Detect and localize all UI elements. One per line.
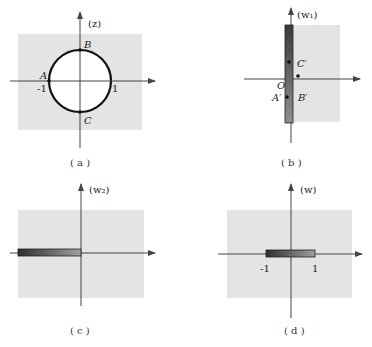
plane-label-w1: (w₁) bbox=[297, 9, 317, 20]
point-c-prime-dot bbox=[287, 60, 291, 64]
tick-one: 1 bbox=[312, 263, 318, 274]
shaded-half-plane bbox=[292, 25, 340, 122]
point-a-dot bbox=[47, 79, 51, 83]
slit-bar bbox=[285, 25, 293, 123]
point-b-label: B bbox=[83, 39, 91, 50]
plane-label-z: (z) bbox=[88, 18, 101, 29]
point-a-prime-dot bbox=[285, 95, 289, 99]
tick-one: 1 bbox=[112, 83, 118, 94]
caption-a: ( a ) bbox=[70, 157, 90, 168]
point-c-label: C bbox=[84, 115, 92, 126]
panel-b: (w₁) C′ O A′ B′ ( b ) bbox=[244, 8, 360, 168]
point-a-label: A bbox=[39, 70, 47, 81]
conformal-mapping-diagram: (z) B A -1 1 C ( a ) (w₁) C′ O A′ B′ ( b… bbox=[0, 0, 372, 347]
plane-label-w2: (w₂) bbox=[89, 184, 109, 195]
origin-label: O bbox=[277, 80, 285, 91]
panel-c: (w₂) ( c ) bbox=[10, 184, 155, 336]
point-a-prime-label: A′ bbox=[271, 92, 282, 103]
caption-c: ( c ) bbox=[70, 325, 90, 336]
slit-bar bbox=[266, 250, 315, 257]
plane-label-w: (w) bbox=[300, 184, 316, 195]
point-b-prime-dot bbox=[296, 74, 300, 78]
panel-a: (z) B A -1 1 C ( a ) bbox=[10, 12, 155, 168]
caption-d: ( d ) bbox=[284, 325, 305, 336]
point-b-prime-label: B′ bbox=[297, 92, 308, 103]
point-b-dot bbox=[78, 48, 82, 52]
panel-d: (w) -1 1 ( d ) bbox=[218, 184, 362, 336]
slit-bar bbox=[18, 249, 81, 256]
point-c-prime-label: C′ bbox=[297, 58, 308, 69]
caption-b: ( b ) bbox=[281, 157, 302, 168]
tick-neg-one: -1 bbox=[37, 83, 47, 94]
tick-neg-one: -1 bbox=[260, 263, 270, 274]
point-c-dot bbox=[78, 110, 82, 114]
